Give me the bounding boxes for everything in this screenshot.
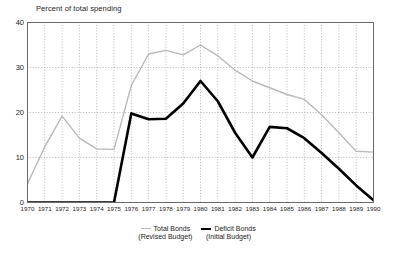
x-axis-tick-labels: 1970197119721973197419751976197719781979… xyxy=(27,205,374,217)
x-axis-tick-1973: 1973 xyxy=(73,205,87,212)
x-axis-tick-1978: 1978 xyxy=(159,205,173,212)
x-axis-tick-1990: 1990 xyxy=(367,205,381,212)
x-axis-tick-1974: 1974 xyxy=(90,205,104,212)
x-axis-tick-1986: 1986 xyxy=(297,205,311,212)
chart-figure: Percent of total spending 403020100 1970… xyxy=(0,0,394,258)
x-axis-tick-1980: 1980 xyxy=(194,205,208,212)
x-axis-tick-1989: 1989 xyxy=(349,205,363,212)
y-axis-tick-10: 10 xyxy=(2,153,24,162)
x-axis-tick-1979: 1979 xyxy=(176,205,190,212)
chart-plot-svg xyxy=(27,22,374,203)
legend-swatch-icon xyxy=(201,228,211,230)
legend-swatch-icon xyxy=(141,228,151,229)
x-axis-tick-1987: 1987 xyxy=(315,205,329,212)
x-axis-tick-1970: 1970 xyxy=(21,205,35,212)
legend-item-total-bonds: Total Bonds(Revised Budget) xyxy=(138,225,192,240)
plot-area xyxy=(27,22,374,203)
x-axis-tick-1975: 1975 xyxy=(107,205,121,212)
legend-label: Total Bonds xyxy=(154,225,191,232)
x-axis-tick-1972: 1972 xyxy=(55,205,69,212)
y-axis-tick-40: 40 xyxy=(2,18,24,27)
x-axis-tick-1982: 1982 xyxy=(228,205,242,212)
x-axis-tick-1985: 1985 xyxy=(280,205,294,212)
x-axis-tick-1977: 1977 xyxy=(142,205,156,212)
y-axis-tick-20: 20 xyxy=(2,108,24,117)
x-axis-tick-1988: 1988 xyxy=(332,205,346,212)
x-axis-tick-1983: 1983 xyxy=(246,205,260,212)
y-axis-tick-30: 30 xyxy=(2,63,24,72)
series-line-deficit-bonds xyxy=(28,81,374,203)
x-axis-tick-1976: 1976 xyxy=(124,205,138,212)
y-axis-tick-labels: 403020100 xyxy=(0,0,24,258)
legend-sublabel: (Revised Budget) xyxy=(138,233,192,240)
chart-axis-title: Percent of total spending xyxy=(36,4,121,13)
legend-sublabel: (Initial Budget) xyxy=(206,233,251,240)
x-axis-tick-1981: 1981 xyxy=(211,205,225,212)
x-axis-tick-1984: 1984 xyxy=(263,205,277,212)
chart-legend: Total Bonds(Revised Budget)Deficit Bonds… xyxy=(0,225,394,240)
gridlines xyxy=(27,22,374,203)
legend-item-deficit-bonds: Deficit Bonds(Initial Budget) xyxy=(201,225,255,240)
x-axis-tick-1971: 1971 xyxy=(38,205,52,212)
legend-label: Deficit Bonds xyxy=(214,225,255,232)
